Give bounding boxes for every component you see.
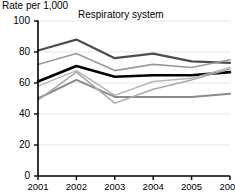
data-line-series-1 xyxy=(38,40,230,63)
data-line-series-4 xyxy=(38,68,230,96)
y-tick-label: 100 xyxy=(4,15,30,26)
y-tick-label: 20 xyxy=(4,139,30,150)
y-axis-title: Rate per 1,000 xyxy=(2,0,68,11)
plot-area xyxy=(32,19,224,174)
y-tick-label: 40 xyxy=(4,108,30,119)
y-tick-label: 60 xyxy=(4,77,30,88)
respiratory-system-line-chart: Rate per 1,000 Respiratory system 020406… xyxy=(0,0,235,194)
y-tick-label: 0 xyxy=(4,170,30,181)
plot-svg xyxy=(32,19,235,185)
y-tick-label: 80 xyxy=(4,46,30,57)
